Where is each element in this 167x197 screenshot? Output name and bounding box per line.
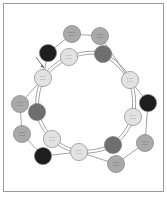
node-mid: [136, 134, 153, 151]
node-light: [124, 108, 141, 125]
node-mid: [63, 25, 80, 42]
node-light: [43, 130, 60, 147]
node-circle: [39, 44, 56, 61]
node-black: [139, 94, 156, 111]
node-circle: [139, 94, 156, 111]
node-circle: [104, 136, 121, 153]
node-circle: [136, 134, 153, 151]
node-circle: [34, 69, 51, 86]
node-circle: [11, 95, 28, 112]
node-black: [34, 147, 51, 164]
node-circle: [124, 108, 141, 125]
node-circle: [91, 27, 108, 44]
node-circle: [107, 155, 124, 172]
node-dark: [94, 45, 111, 62]
node-black: [39, 44, 56, 61]
node-circle: [94, 45, 111, 62]
node-light: [60, 48, 77, 65]
node-circle: [60, 48, 77, 65]
node-circle: [70, 143, 87, 160]
node-dark: [28, 103, 45, 120]
node-circle: [121, 71, 138, 88]
node-circle: [34, 147, 51, 164]
node-mid: [11, 95, 28, 112]
node-mid: [13, 125, 30, 142]
node-light: [121, 71, 138, 88]
node-mid: [91, 27, 108, 44]
bead-ring-diagram: [0, 0, 167, 197]
node-light: [34, 69, 51, 86]
node-circle: [43, 130, 60, 147]
node-circle: [63, 25, 80, 42]
node-dark: [104, 136, 121, 153]
node-circle: [13, 125, 30, 142]
node-light: [70, 143, 87, 160]
node-circle: [28, 103, 45, 120]
node-mid: [107, 155, 124, 172]
